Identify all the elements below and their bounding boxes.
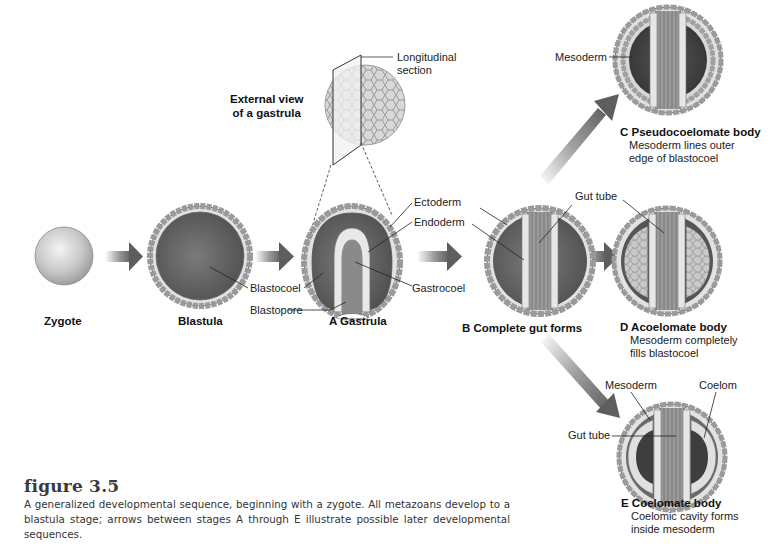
pseudocoelomate-illustration [609, 7, 721, 113]
acoelomate-desc-line2: fills blastocoel [630, 347, 738, 360]
section-label-line2: section [397, 64, 456, 77]
blastula-title: Blastula [178, 314, 223, 328]
blastocoel-label: Blastocoel [250, 282, 301, 295]
figure-caption: A generalized developmental sequence, be… [24, 497, 510, 542]
blastopore-label: Blastopore [250, 304, 303, 317]
coelom-label: Coelom [699, 379, 737, 392]
zygote-illustration [35, 227, 93, 285]
pseudocoelomate-desc-line2: edge of blastocoel [629, 152, 735, 165]
external-view-label: External view of a gastrula [230, 92, 304, 120]
coelomate-desc-line2: inside mesoderm [631, 523, 739, 536]
pseudocoelomate-desc-line1: Mesoderm lines outer [629, 139, 735, 152]
section-label-line1: Longitudinal [397, 51, 456, 64]
blastula-illustration [150, 206, 250, 306]
gut-tube-label-b: Gut tube [575, 190, 617, 203]
acoelomate-illustration [614, 200, 720, 314]
gastrula-title: A Gastrula [329, 314, 387, 328]
pseudocoelomate-desc: Mesoderm lines outer edge of blastocoel [629, 139, 735, 165]
longitudinal-section-label: Longitudinal section [397, 51, 456, 77]
coelomate-illustration [612, 392, 725, 510]
acoelomate-desc: Mesoderm completely fills blastocoel [630, 334, 738, 360]
mesoderm-label-c: Mesoderm [555, 51, 607, 64]
coelomate-desc-line1: Coelomic cavity forms [631, 510, 739, 523]
arrow-gastrula-to-gut [417, 242, 462, 271]
arrow-gut-to-coelomate [541, 334, 620, 418]
endoderm-label: Endoderm [414, 216, 465, 229]
arrow-gut-to-pseudocoelomate [540, 94, 619, 185]
coelomate-title: E Coelomate body [621, 496, 721, 510]
complete-gut-illustration [472, 205, 593, 314]
gastrocoel-label: Gastrocoel [412, 282, 465, 295]
gut-tube-label-e: Gut tube [568, 429, 610, 442]
arrow-blastula-to-gastrula [255, 242, 294, 271]
external-view-line2: of a gastrula [230, 106, 304, 120]
complete-gut-title: B Complete gut forms [462, 321, 582, 335]
figure-title: figure 3.5 [24, 476, 119, 496]
mesoderm-label-e: Mesoderm [605, 379, 657, 392]
arrow-zygote-to-blastula [105, 242, 143, 271]
developmental-sequence-diagram [0, 0, 782, 553]
coelomate-desc: Coelomic cavity forms inside mesoderm [631, 510, 739, 536]
zygote-title: Zygote [44, 314, 82, 328]
acoelomate-title: D Acoelomate body [620, 320, 727, 334]
ectoderm-label: Ectoderm [414, 196, 461, 209]
pseudocoelomate-title: C Pseudocoelomate body [620, 125, 761, 139]
external-view-line1: External view [230, 92, 304, 106]
gastrula-illustration [288, 203, 412, 318]
acoelomate-desc-line1: Mesoderm completely [630, 334, 738, 347]
